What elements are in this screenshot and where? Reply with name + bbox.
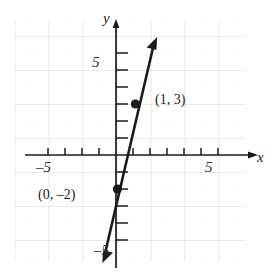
y-tick-label-negative-5: –5 [94,243,109,258]
x-axis-label: x [257,150,264,165]
data-point-0-neg2 [113,184,122,193]
y-tick-label-5: 5 [92,55,100,70]
x-tick-label-5: 5 [205,160,213,175]
grid-layer [15,19,246,262]
coordinate-plane-svg [0,0,275,272]
point-label-1-3: (1, 3) [155,93,185,107]
graph-figure: y x 5 –5 –5 5 (1, 3) (0, –2) [0,0,275,272]
y-axis-label: y [103,11,110,26]
x-tick-label-negative-5: –5 [36,160,51,175]
data-point-1-3 [131,99,140,108]
point-label-0-neg2: (0, –2) [38,188,75,202]
